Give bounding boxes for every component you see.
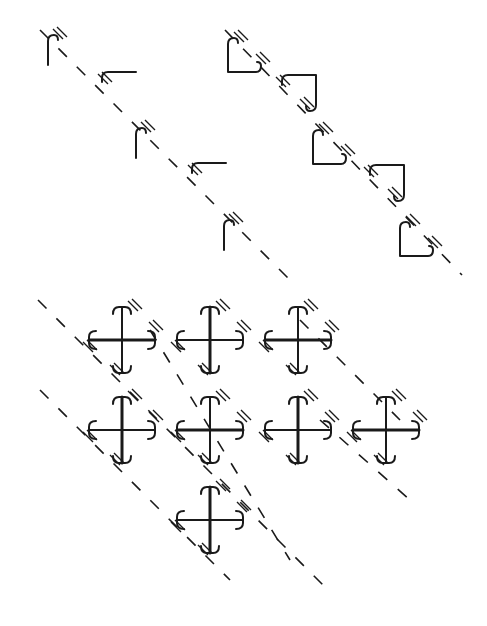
hook-vertical-motif: [48, 35, 58, 65]
dashed-axis-line: [38, 300, 330, 592]
hook-frieze: [48, 27, 243, 250]
dashed-axis-line: [40, 30, 290, 280]
double-tick-mark: [237, 410, 251, 422]
cross-motif: [171, 389, 251, 465]
double-tick-mark: [149, 320, 163, 332]
cross-motif: [171, 299, 251, 375]
hook-vertical-motif: [136, 128, 146, 158]
diagram-svg: [0, 0, 487, 626]
cross-motif: [83, 299, 163, 375]
double-tick-mark: [325, 320, 339, 332]
double-tick-mark: [149, 410, 163, 422]
symmetry-diagram: [0, 0, 487, 626]
hook-glide-axis: [40, 30, 290, 280]
double-tick-mark: [325, 410, 339, 422]
double-tick-mark: [319, 122, 333, 134]
dashed-axis-line: [150, 330, 290, 560]
double-tick-mark: [98, 72, 112, 84]
double-tick-mark: [141, 120, 155, 132]
double-tick-mark: [53, 27, 67, 39]
cross-motif: [171, 479, 251, 555]
double-tick-mark: [234, 30, 248, 42]
cross-glide-axes: [38, 300, 410, 592]
cross-motif: [83, 389, 163, 465]
double-tick-mark: [237, 320, 251, 332]
hook-vertical-motif: [224, 220, 234, 250]
dashed-axis-line: [320, 420, 410, 500]
cross-lattice: [83, 299, 427, 555]
cross-motif: [347, 389, 427, 465]
double-tick-mark: [188, 163, 202, 175]
square-hook-motif-mirrored: [370, 165, 404, 201]
cross-motif: [259, 299, 339, 375]
double-tick-mark: [413, 410, 427, 422]
